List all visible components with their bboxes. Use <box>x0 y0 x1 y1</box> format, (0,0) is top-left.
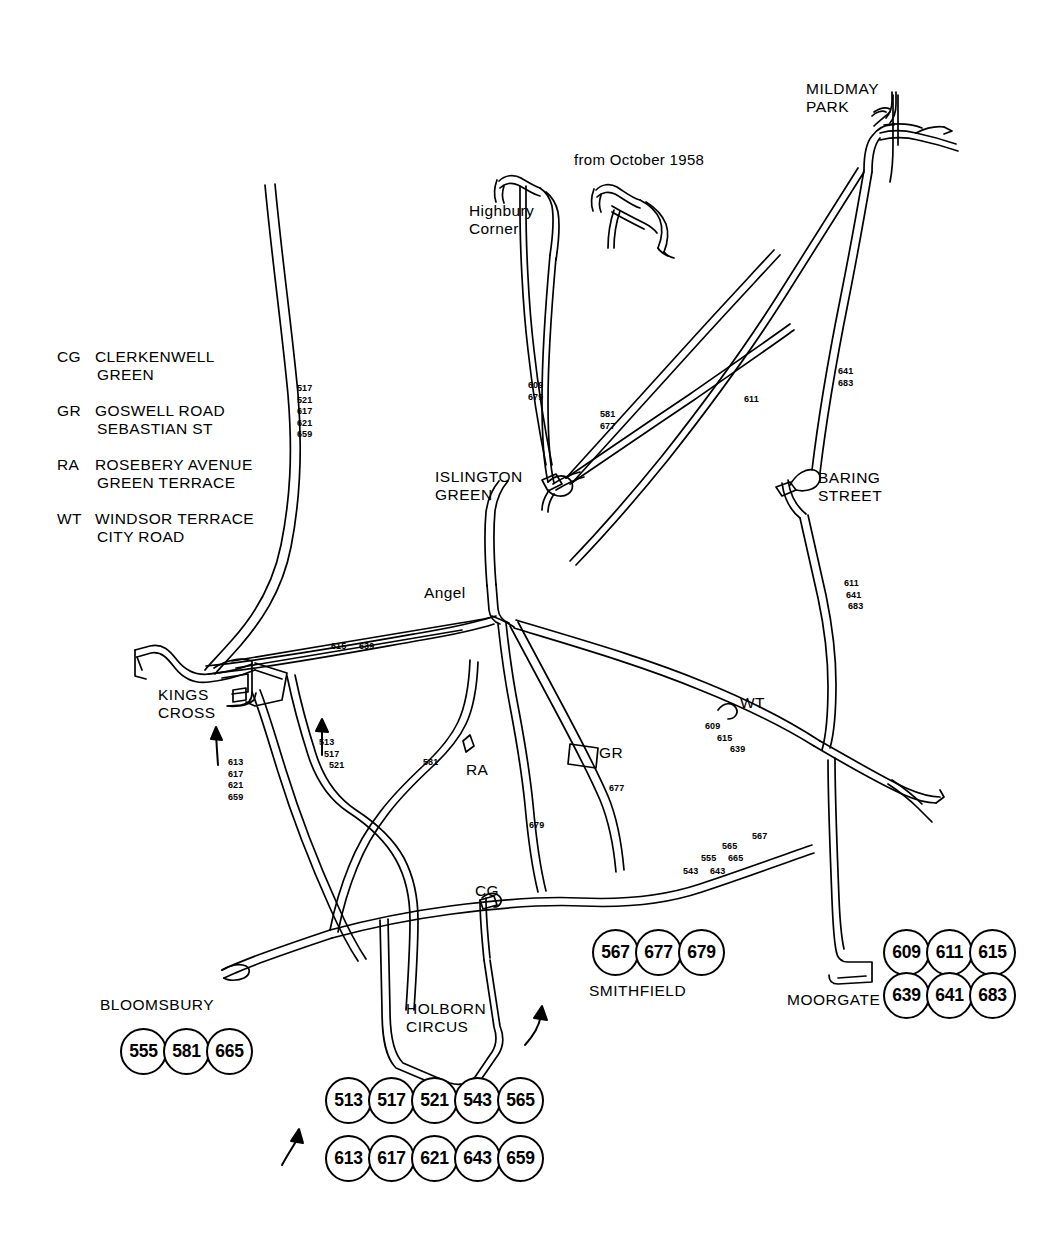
route-numbers-caledonian: 517 521 617 621 659 <box>297 383 312 441</box>
legend-row-ra: RA ROSEBERY AVENUE GREEN TERRACE <box>57 456 254 492</box>
legend-row-gr: GR GOSWELL ROAD SEBASTIAN ST <box>57 402 254 438</box>
legend-name-wt-line2: CITY ROAD <box>95 528 254 546</box>
route-badge-659[interactable]: 659 <box>497 1135 544 1182</box>
route-badge-677[interactable]: 677 <box>635 929 682 976</box>
legend-name-wt-line1: WINDSOR TERRACE <box>95 510 254 528</box>
legend-row-wt: WT WINDSOR TERRACE CITY ROAD <box>57 510 254 546</box>
route-group-bloomsbury: 555 581 665 <box>120 1028 249 1075</box>
route-number: 659 <box>228 792 243 804</box>
place-label-holborn-circus-line1: HOLBORN <box>406 1000 486 1018</box>
route-number: 613 <box>228 757 243 769</box>
group-label-smithfield: SMITHFIELD <box>589 982 686 1000</box>
route-number: 641 <box>844 590 863 602</box>
place-label-islington-green-line2: GREEN <box>435 486 523 504</box>
track-highbury-south <box>542 255 556 483</box>
route-badge-613[interactable]: 613 <box>325 1135 372 1182</box>
route-group-row: 555 581 665 <box>120 1028 249 1075</box>
place-label-mildmay-park-line2: PARK <box>806 98 879 116</box>
track-city-road-east <box>814 741 944 822</box>
track-islington-diagonal <box>566 324 794 484</box>
route-number: 513 <box>319 737 344 749</box>
route-badge-565[interactable]: 565 <box>497 1077 544 1124</box>
route-numbers-st-johns: 679 <box>529 820 544 832</box>
track-mildmay-south <box>570 168 864 565</box>
route-badge-641[interactable]: 641 <box>926 972 973 1019</box>
place-label-islington-green-line1: ISLINGTON <box>435 468 523 486</box>
legend-name-ra-line1: ROSEBERY AVENUE <box>95 456 253 474</box>
route-number: 665 <box>728 853 743 865</box>
route-number: 611 <box>744 394 759 406</box>
route-badge-643[interactable]: 643 <box>454 1135 501 1182</box>
route-group-holborn-circus-row1: 513 517 521 543 565 <box>325 1077 540 1124</box>
route-badge-611[interactable]: 611 <box>926 929 973 976</box>
route-number: 679 <box>529 820 544 832</box>
route-badge-665[interactable]: 665 <box>206 1028 253 1075</box>
trolleybus-route-diagram: CG CLERKENWELL GREEN GR GOSWELL ROAD SEB… <box>0 0 1044 1244</box>
route-number: 581 <box>423 757 438 769</box>
route-badge-567[interactable]: 567 <box>592 929 639 976</box>
place-label-holborn-circus-line2: CIRCUS <box>406 1018 486 1036</box>
route-number: 517 <box>319 749 344 761</box>
route-badge-617[interactable]: 617 <box>368 1135 415 1182</box>
route-badge-581[interactable]: 581 <box>163 1028 210 1075</box>
legend-name-cg: CLERKENWELL GREEN <box>95 348 215 384</box>
place-label-mildmay-park-line1: MILDMAY <box>806 80 879 98</box>
route-badge-521[interactable]: 521 <box>411 1077 458 1124</box>
route-number: 621 <box>228 780 243 792</box>
legend-code-wt: WT <box>57 510 95 546</box>
route-group-row: 609 611 615 <box>883 929 1012 976</box>
route-badge-679[interactable]: 679 <box>678 929 725 976</box>
route-number: 609 <box>705 721 745 733</box>
route-group-row: 513 517 521 543 565 <box>325 1077 540 1124</box>
place-label-kings-cross-line2: CROSS <box>158 704 216 722</box>
route-number: 521 <box>297 395 312 407</box>
track-baring-south <box>800 515 836 750</box>
route-number: 611 <box>844 578 863 590</box>
track-baring-street <box>776 470 820 518</box>
legend-code-ra: RA <box>57 456 95 492</box>
marker-label-wt: WT <box>740 694 765 712</box>
route-badge-639[interactable]: 639 <box>883 972 930 1019</box>
place-label-angel: Angel <box>424 584 466 602</box>
legend-code-cg: CG <box>57 348 95 384</box>
track-baring-north <box>812 170 872 473</box>
route-number: 517 <box>297 383 312 395</box>
route-numbers-mildmay-down: 641 683 <box>838 366 853 389</box>
route-number: 679 <box>528 392 543 404</box>
route-numbers-rosebery: 581 <box>423 757 438 769</box>
route-badge-517[interactable]: 517 <box>368 1077 415 1124</box>
track-rosebery-avenue <box>330 660 478 932</box>
route-numbers-baring-south: 611 641 683 <box>844 578 863 613</box>
group-label-moorgate: MOORGATE <box>787 991 880 1009</box>
marker-label-gr: GR <box>599 744 623 762</box>
route-number: 641 <box>838 366 853 378</box>
legend-name-wt: WINDSOR TERRACE CITY ROAD <box>95 510 254 546</box>
route-badge-683[interactable]: 683 <box>969 972 1016 1019</box>
track-bloomsbury <box>222 930 332 980</box>
route-badge-615[interactable]: 615 <box>969 929 1016 976</box>
place-label-kings-cross: KINGS CROSS <box>158 686 216 722</box>
track-st-john-street <box>498 623 546 892</box>
route-badge-621[interactable]: 621 <box>411 1135 458 1182</box>
route-numbers-angel-west: 615 639 <box>331 641 374 653</box>
group-label-bloomsbury: BLOOMSBURY <box>100 996 214 1014</box>
route-badge-609[interactable]: 609 <box>883 929 930 976</box>
marker-label-cg: CG <box>475 882 499 900</box>
route-number: 643 <box>710 866 725 878</box>
track-kings-cross <box>135 645 255 682</box>
route-number: 683 <box>838 378 853 390</box>
track-pentonville-south <box>287 675 418 1010</box>
route-number: 659 <box>297 429 312 441</box>
route-number: 617 <box>228 769 243 781</box>
route-number: 621 <box>297 418 312 430</box>
route-number: 543 <box>683 866 698 878</box>
route-numbers-kings-cross-south: 613 617 621 659 <box>228 757 243 803</box>
place-label-highbury-corner: Highbury Corner <box>469 202 534 238</box>
route-badge-555[interactable]: 555 <box>120 1028 167 1075</box>
route-number: 683 <box>844 601 863 613</box>
route-badge-513[interactable]: 513 <box>325 1077 372 1124</box>
route-number: 567 <box>752 831 767 843</box>
route-group-row: 567 677 679 <box>592 929 721 976</box>
route-badge-543[interactable]: 543 <box>454 1077 501 1124</box>
legend: CG CLERKENWELL GREEN GR GOSWELL ROAD SEB… <box>57 348 254 564</box>
